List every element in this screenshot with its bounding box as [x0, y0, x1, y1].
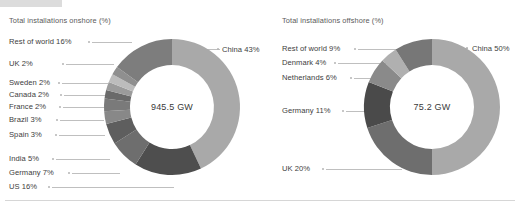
- tick-onshore-uk: [62, 63, 64, 65]
- donut-svg-onshore: [106, 33, 238, 181]
- tick-onshore-sweden: [58, 82, 60, 84]
- chart-title-onshore: Total installations onshore (%): [9, 16, 111, 25]
- leader-onshore-brazil: [60, 120, 104, 121]
- label-onshore-uk: UK 2%: [9, 59, 33, 68]
- leader-onshore-us: [52, 187, 174, 188]
- tick-onshore-us: [48, 186, 50, 188]
- tick-offshore-netherlands: [350, 77, 352, 79]
- chart-panel-onshore: Total installations onshore (%) Rest of …: [0, 0, 260, 200]
- tick-offshore-uk: [322, 168, 324, 170]
- tick-onshore-canada: [60, 94, 62, 96]
- label-onshore-india: India 5%: [9, 154, 39, 163]
- donut-chart-onshore: 945.5 GW: [106, 33, 238, 181]
- bottom-divider: [5, 200, 515, 201]
- label-offshore-netherlands: Netherlands 6%: [282, 73, 337, 82]
- donut-slice-china: [432, 39, 500, 175]
- tick-onshore-india: [52, 158, 54, 160]
- tick-offshore-denmark: [334, 62, 336, 64]
- leader-onshore-canada: [64, 95, 106, 96]
- label-onshore-sweden: Sweden 2%: [9, 78, 50, 87]
- label-offshore-uk: UK 20%: [282, 164, 310, 173]
- label-onshore-canada: Canada 2%: [9, 90, 49, 99]
- donut-slice-uk: [367, 120, 432, 175]
- donut-chart-offshore: 75.2 GW: [366, 33, 498, 181]
- label-onshore-rest-of-world: Rest of world 16%: [9, 37, 71, 46]
- label-onshore-brazil: Brazil 3%: [9, 115, 42, 124]
- tick-onshore-rest-of-world: [88, 41, 90, 43]
- chart-panel-offshore: Total installations offshore (%) Rest of…: [260, 0, 520, 200]
- label-offshore-germany: Germany 11%: [282, 106, 331, 115]
- tick-onshore-spain: [55, 134, 57, 136]
- label-offshore-rest-of-world: Rest of world 9%: [282, 44, 340, 53]
- tick-offshore-germany: [342, 110, 344, 112]
- donut-svg-offshore: [366, 33, 498, 181]
- label-offshore-denmark: Denmark 4%: [282, 58, 326, 67]
- leader-onshore-france: [63, 107, 105, 108]
- leader-onshore-spain: [59, 135, 105, 136]
- tick-offshore-rest-of-world: [354, 48, 356, 50]
- label-onshore-spain: Spain 3%: [9, 130, 42, 139]
- leader-onshore-india: [56, 159, 110, 160]
- label-onshore-us: US 16%: [9, 182, 37, 191]
- label-onshore-germany: Germany 7%: [9, 168, 54, 177]
- tick-onshore-germany: [68, 172, 70, 174]
- tick-onshore-france: [59, 106, 61, 108]
- label-onshore-france: France 2%: [9, 102, 46, 111]
- tick-onshore-brazil: [56, 119, 58, 121]
- leader-onshore-sweden: [62, 83, 108, 84]
- chart-title-offshore: Total installations offshore (%): [282, 16, 384, 25]
